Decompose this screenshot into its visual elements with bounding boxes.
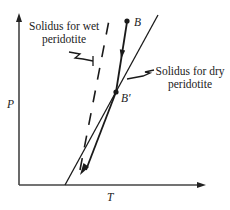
point-b-marker [124, 18, 129, 23]
dry-solidus-leader [127, 70, 154, 79]
point-b-prime-marker [113, 89, 118, 94]
x-axis [19, 182, 206, 188]
y-axis-arrow-icon [16, 13, 22, 22]
wet-solidus-label: Solidus for wet peridotite [29, 20, 99, 46]
wet-solidus-leader [69, 52, 93, 61]
x-axis-arrow-icon [197, 182, 206, 188]
dry-solidus-label-line1: Solidus for dry [154, 65, 226, 78]
wet-solidus-label-line1: Solidus for wet [29, 20, 99, 33]
dry-solidus-label-line2: peridotite [154, 78, 226, 91]
wet-solidus-label-line2: peridotite [29, 33, 99, 46]
y-axis [16, 13, 22, 185]
dry-solidus-label: Solidus for dry peridotite [154, 65, 226, 91]
x-axis-label: T [107, 191, 113, 204]
point-b-label: B [134, 16, 141, 29]
y-axis-label: P [7, 98, 14, 111]
point-b-prime-label: B′ [121, 92, 131, 105]
phase-diagram: Solidus for wet peridotite Solidus for d… [0, 0, 230, 210]
